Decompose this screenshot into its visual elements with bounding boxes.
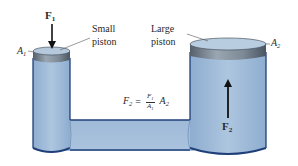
force-out-label: F2: [222, 121, 232, 134]
small-piston-label: Small piston: [92, 22, 116, 48]
large-piston-leader: [187, 34, 208, 41]
equation-fraction: F1 A1: [146, 93, 155, 111]
large-piston-label: Large piston: [151, 22, 175, 48]
equation-equals: =: [135, 97, 141, 107]
connecting-pipe: [66, 120, 194, 151]
pressure-equation: F2 = F1 A1 A2: [123, 93, 169, 111]
force-in-arrow: [48, 24, 56, 49]
hydraulic-lift-diagram: F1 A1 Small piston Large piston A2 F2 F2…: [0, 0, 298, 166]
small-piston: [33, 47, 70, 63]
force-in-label: F1: [45, 10, 55, 23]
equation-lhs: F2: [123, 96, 132, 108]
small-piston-leader: [60, 38, 90, 50]
large-piston: [190, 38, 266, 60]
area-large-label: A2: [271, 38, 280, 50]
small-cylinder: [33, 58, 71, 152]
area-small-label: A1: [17, 46, 26, 58]
equation-rhs: A2: [160, 96, 169, 108]
large-cylinder: [188, 52, 266, 154]
diagram-graphics: [0, 0, 298, 166]
